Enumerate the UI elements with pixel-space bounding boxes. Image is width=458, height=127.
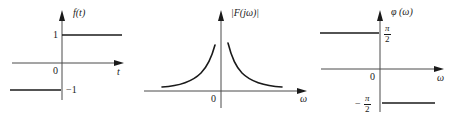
pi-numerator-bottom: π bbox=[364, 94, 371, 103]
origin-label-time: 0 bbox=[53, 66, 58, 76]
y-tick-label-minus-pi-over-two: π 2 bbox=[364, 94, 371, 115]
two-denominator-top: 2 bbox=[384, 35, 391, 44]
y-axis-label-phase: φ (ω) bbox=[391, 7, 413, 17]
magnitude-curve-left bbox=[162, 45, 215, 87]
y-tick-label-minus-one: −1 bbox=[66, 85, 77, 95]
minus-sign-bottom: − bbox=[355, 99, 361, 109]
magnitude-curve-right bbox=[228, 43, 282, 87]
magnitude-plot bbox=[140, 0, 315, 127]
x-axis-label-omega-phase: ω bbox=[437, 73, 444, 83]
x-axis-phase bbox=[321, 66, 444, 72]
y-axis-time bbox=[59, 10, 65, 100]
y-axis-label-magnitude: |F(jω)| bbox=[231, 8, 259, 18]
two-denominator-bottom: 2 bbox=[364, 105, 371, 114]
panel-magnitude: |F(jω)| ω 0 bbox=[140, 0, 315, 127]
y-axis-label-ft: f(t) bbox=[73, 8, 85, 18]
x-axis-time bbox=[12, 60, 124, 66]
x-axis-magnitude bbox=[144, 88, 307, 94]
time-domain-plot bbox=[0, 0, 140, 127]
origin-label-phase: 0 bbox=[370, 72, 375, 82]
pi-numerator-top: π bbox=[384, 24, 391, 33]
x-axis-label-omega-magnitude: ω bbox=[300, 94, 307, 104]
panel-phase: φ (ω) ω 0 π 2 − π 2 bbox=[315, 0, 458, 127]
origin-label-magnitude: 0 bbox=[211, 94, 216, 104]
panel-time-domain: f(t) t 1 −1 0 bbox=[0, 0, 140, 127]
y-axis-magnitude bbox=[218, 10, 224, 108]
y-tick-label-pi-over-two: π 2 bbox=[384, 24, 391, 45]
y-axis-phase bbox=[377, 10, 383, 112]
phase-plot bbox=[315, 0, 458, 127]
figure-root: f(t) t 1 −1 0 |F(jω)| ω 0 bbox=[0, 0, 458, 127]
x-axis-label-t: t bbox=[117, 67, 120, 77]
y-tick-label-one: 1 bbox=[53, 30, 58, 40]
